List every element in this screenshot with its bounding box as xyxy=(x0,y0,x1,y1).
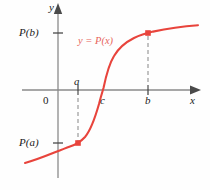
point-b-pb xyxy=(145,30,151,36)
axis-ticks xyxy=(53,33,148,143)
dashed-guides xyxy=(78,34,148,144)
x-tick-label-b: b xyxy=(145,95,151,106)
marked-points xyxy=(75,30,151,146)
y-axis-arrow xyxy=(54,3,62,14)
origin-label: 0 xyxy=(43,95,49,106)
curve-equation-label: y = P(x) xyxy=(78,36,113,47)
y-axis-label: y xyxy=(49,2,54,13)
x-tick-label-c: c xyxy=(100,95,105,106)
x-axis-label: x xyxy=(190,95,195,106)
point-a-pa xyxy=(75,140,81,146)
y-tick-label-pb: P(b) xyxy=(19,27,39,38)
x-tick-label-a: a xyxy=(74,76,80,87)
function-graph-figure: y x 0 P(b) P(a) a c b y = P(x) xyxy=(0,0,210,190)
y-tick-label-pa: P(a) xyxy=(19,137,39,148)
